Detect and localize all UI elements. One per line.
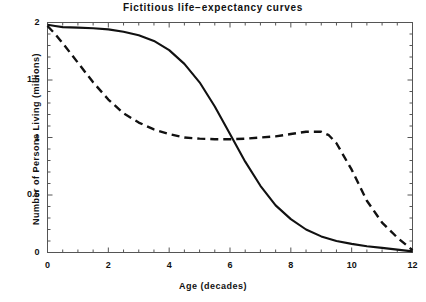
y-axis-label: Number of Persons Living (millions) bbox=[31, 19, 41, 259]
plot-frame bbox=[48, 23, 413, 253]
x-tick-label: 0 bbox=[36, 260, 60, 270]
plot-area bbox=[0, 0, 426, 302]
x-tick-label: 6 bbox=[218, 260, 242, 270]
x-tick-label: 4 bbox=[157, 260, 181, 270]
data-series bbox=[48, 25, 413, 252]
x-tick-label: 2 bbox=[96, 260, 120, 270]
axis-ticks bbox=[48, 23, 413, 253]
x-tick-label: 10 bbox=[340, 260, 364, 270]
frame-box bbox=[48, 23, 413, 253]
dashed-curve bbox=[48, 26, 413, 250]
x-tick-label: 8 bbox=[279, 260, 303, 270]
chart-figure: Fictitious life−expectancy curves 024681… bbox=[0, 0, 426, 302]
x-tick-label: 12 bbox=[401, 260, 425, 270]
x-axis-label: Age (decades) bbox=[0, 281, 426, 291]
